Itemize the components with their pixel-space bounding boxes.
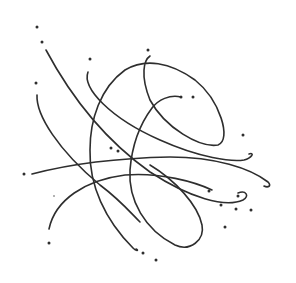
ink-dot (89, 58, 92, 61)
ink-dot (53, 195, 54, 196)
scribble-artwork (0, 0, 296, 283)
ink-dot (147, 49, 150, 52)
ink-dot (180, 96, 183, 99)
ink-dot (41, 41, 44, 44)
stroke-long-diagonal (46, 50, 247, 203)
ink-dot (250, 209, 253, 212)
stroke-inner-arc (130, 96, 203, 247)
stroke-big-loop (90, 56, 224, 250)
ink-dot (35, 82, 38, 85)
ink-dot (237, 195, 240, 198)
ink-dot (192, 96, 195, 99)
ink-dot (110, 147, 113, 150)
drawing-canvas: Abstract hand-drawn scribble of intersec… (0, 0, 296, 283)
ink-dot (142, 252, 145, 255)
ink-dot (242, 134, 245, 137)
ink-dot (117, 150, 120, 153)
ink-dot (23, 173, 26, 176)
ink-dot (224, 226, 227, 229)
ink-dot (36, 26, 39, 29)
ink-dot (235, 208, 238, 211)
ink-dot (155, 259, 158, 262)
ink-dot (220, 204, 223, 207)
ink-dot (48, 242, 51, 245)
ink-dot (208, 190, 211, 193)
